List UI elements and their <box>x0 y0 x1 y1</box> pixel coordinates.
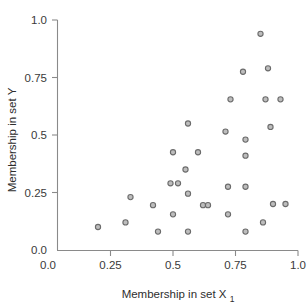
scatter-point <box>265 66 270 71</box>
scatter-point <box>225 212 230 217</box>
scatter-point <box>123 220 128 225</box>
scatter-point <box>268 124 273 129</box>
scatter-point <box>175 181 180 186</box>
y-axis-tick-labels: 0.00.250.50.751.0 <box>25 14 47 256</box>
x-axis-ticks <box>111 251 299 257</box>
y-axis-tick-label: 0.5 <box>31 129 47 141</box>
scatter-point <box>185 229 190 234</box>
x-axis-title: Membership in set X 1 <box>122 288 235 304</box>
x-axis-tick-label: 0.0 <box>40 259 56 271</box>
scatter-point <box>283 201 288 206</box>
scatter-point <box>270 201 275 206</box>
scatter-point <box>200 203 205 208</box>
y-axis-tick-label: 0.75 <box>25 72 47 84</box>
scatter-point <box>243 184 248 189</box>
scatter-point <box>223 129 228 134</box>
x-axis-tick-label: 0.75 <box>224 259 246 271</box>
y-axis-tick-label: 1.0 <box>31 14 47 26</box>
scatter-point <box>258 31 263 36</box>
scatter-point <box>150 203 155 208</box>
scatter-point <box>170 150 175 155</box>
scatter-point <box>205 203 210 208</box>
scatter-point <box>170 212 175 217</box>
scatter-point <box>95 224 100 229</box>
scatter-point <box>183 167 188 172</box>
scatter-point <box>168 181 173 186</box>
scatter-point <box>243 153 248 158</box>
scatter-point <box>260 220 265 225</box>
scatter-point <box>185 191 190 196</box>
scatter-point <box>243 229 248 234</box>
x-axis-tick-label: 0.25 <box>99 259 121 271</box>
scatter-point <box>263 97 268 102</box>
x-axis-tick-labels: 0.00.250.50.751.0 <box>40 259 306 271</box>
scatter-point <box>228 97 233 102</box>
scatter-point <box>195 150 200 155</box>
axes <box>57 20 298 251</box>
scatter-point <box>240 69 245 74</box>
scatter-point <box>278 97 283 102</box>
scatter-plot-figure: 0.00.250.50.751.0 0.00.250.50.751.0 Memb… <box>0 0 308 307</box>
x-axis-tick-label: 0.5 <box>165 259 181 271</box>
plot-canvas: 0.00.250.50.751.0 0.00.250.50.751.0 Memb… <box>0 0 308 307</box>
y-axis-title: Membership in set Y <box>6 87 18 192</box>
x-axis-tick-label: 1.0 <box>290 259 306 271</box>
y-axis-tick-label: 0.0 <box>31 244 47 256</box>
y-axis-ticks <box>52 20 58 193</box>
scatter-point <box>128 195 133 200</box>
scatter-point <box>243 137 248 142</box>
scatter-point <box>155 229 160 234</box>
data-points <box>95 31 288 234</box>
y-axis-tick-label: 0.25 <box>25 187 47 199</box>
scatter-point <box>185 121 190 126</box>
scatter-point <box>225 184 230 189</box>
